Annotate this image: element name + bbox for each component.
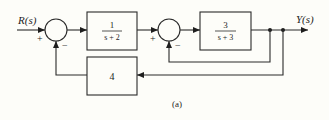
g1-denominator: s + 2	[104, 33, 120, 42]
sum1-plus-sign: +	[37, 33, 43, 44]
g1-numerator: 1	[110, 20, 115, 30]
h-gain-label: 4	[110, 71, 115, 82]
summing-junction-2	[158, 19, 180, 41]
sum1-minus-sign: −	[62, 40, 68, 51]
output-label: Y(s)	[296, 13, 314, 26]
sum2-minus-sign: −	[175, 40, 181, 51]
sum2-plus-sign: +	[150, 33, 156, 44]
input-label: R(s)	[17, 14, 37, 27]
block-diagram: R(s) + − 1 s + 2 + − 3 s + 3 Y(s) 4 (a)	[0, 0, 329, 120]
g2-denominator: s + 3	[218, 33, 234, 42]
summing-junction-1	[45, 19, 67, 41]
figure-caption: (a)	[172, 99, 182, 109]
g2-numerator: 3	[223, 20, 228, 30]
h-to-s1-path	[56, 41, 87, 75]
